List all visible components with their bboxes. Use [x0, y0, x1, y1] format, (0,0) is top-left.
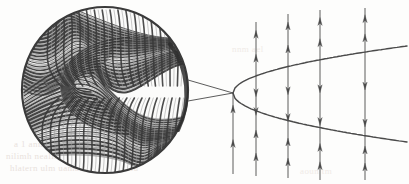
magnified-circular-inset [22, 7, 191, 173]
arrow-column [231, 93, 235, 174]
tie-line-upper [188, 80, 233, 93]
figure-root: a 1 anna hanno nilimh neallinn aeoit all… [0, 0, 409, 184]
inset-tie-lines [188, 80, 233, 101]
tie-line-lower [188, 93, 233, 101]
arrow-column [363, 8, 367, 180]
arrow-column [254, 22, 258, 176]
arrow-column [286, 14, 290, 178]
flux-arrow-columns [231, 8, 367, 180]
figure-canvas [0, 0, 409, 184]
arrow-column [318, 10, 322, 180]
